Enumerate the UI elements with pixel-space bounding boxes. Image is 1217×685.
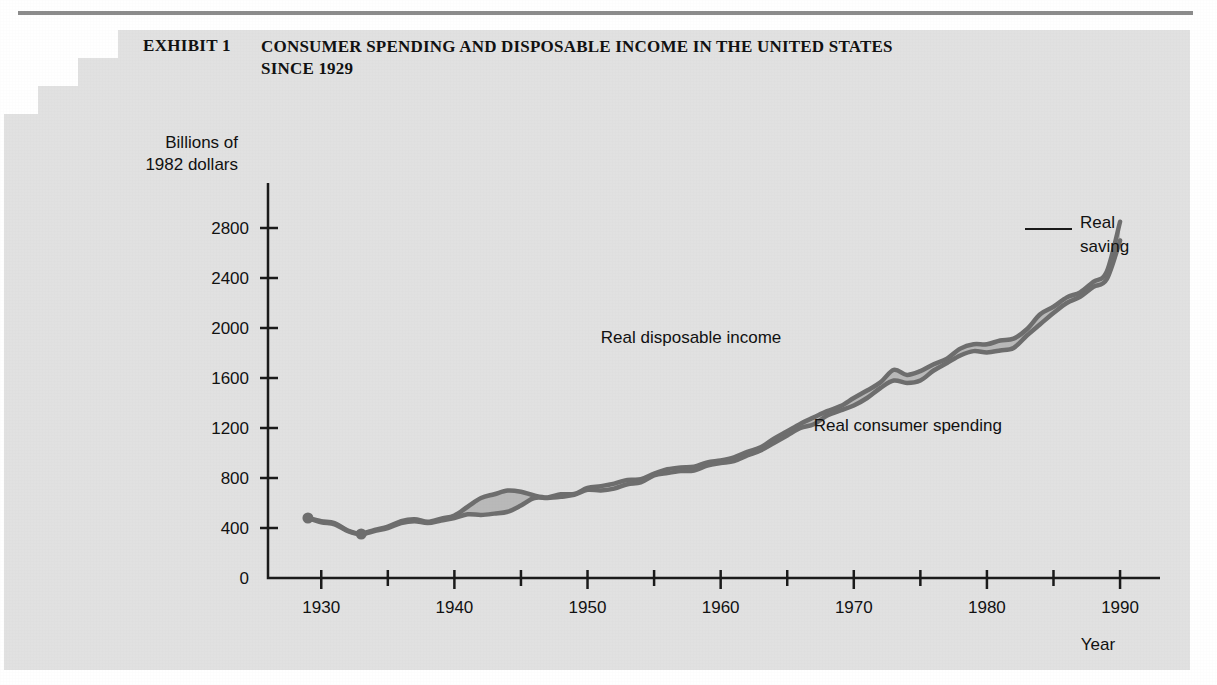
x-axis-ticks xyxy=(321,570,1120,589)
real-disposable-income-line xyxy=(308,222,1120,534)
y-tick-label: 0 xyxy=(240,569,249,588)
y-tick-label: 2800 xyxy=(211,219,249,238)
x-tick-label: 1950 xyxy=(569,598,607,617)
x-tick-label: 1930 xyxy=(302,598,340,617)
y-tick-label: 2000 xyxy=(211,319,249,338)
y-tick-label: 400 xyxy=(221,519,249,538)
trough-point-1933 xyxy=(356,529,367,540)
x-tick-label: 1980 xyxy=(968,598,1006,617)
y-axis-tick-labels: 040080012001600200024002800 xyxy=(211,219,249,588)
y-tick-label: 1600 xyxy=(211,369,249,388)
real-saving-band xyxy=(308,222,1120,535)
y-tick-label: 1200 xyxy=(211,419,249,438)
y-axis-title-line1: Billions of xyxy=(165,133,238,152)
y-tick-label: 800 xyxy=(221,469,249,488)
real-consumer-spending-line xyxy=(308,241,1120,535)
start-point-1929 xyxy=(302,513,313,524)
real-disposable-income-label: Real disposable income xyxy=(601,328,782,347)
real-saving-label-line1: Real xyxy=(1080,213,1115,232)
x-axis-title: Year xyxy=(1081,635,1116,654)
y-tick-label: 2400 xyxy=(211,269,249,288)
x-tick-label: 1940 xyxy=(435,598,473,617)
x-tick-label: 1970 xyxy=(835,598,873,617)
x-tick-label: 1960 xyxy=(702,598,740,617)
x-axis-tick-labels: 1930194019501960197019801990 xyxy=(302,598,1139,617)
real-saving-label-line2: saving xyxy=(1080,237,1129,256)
chart-canvas: Billions of 1982 dollars 040080012001600… xyxy=(0,0,1217,685)
y-axis-title-line2: 1982 dollars xyxy=(145,155,238,174)
real-consumer-spending-label: Real consumer spending xyxy=(814,416,1002,435)
x-tick-label: 1990 xyxy=(1101,598,1139,617)
